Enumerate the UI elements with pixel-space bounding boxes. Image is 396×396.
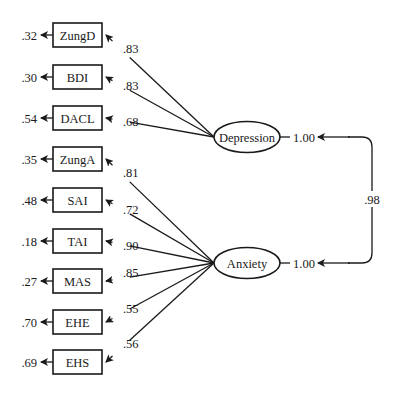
loading-path xyxy=(130,246,214,263)
factor-loading: .90 xyxy=(123,239,139,253)
loading-path xyxy=(130,182,214,263)
indicator-label: BDI xyxy=(67,71,89,85)
factor-label: Depression xyxy=(219,131,276,145)
error-variance: .35 xyxy=(21,153,37,167)
error-variance: .54 xyxy=(21,112,37,126)
factor-loading: .81 xyxy=(123,166,139,180)
loading-arrow xyxy=(106,159,112,165)
factor-loading: .68 xyxy=(123,115,139,129)
factor-loading: .56 xyxy=(123,337,139,351)
loading-path xyxy=(130,214,214,263)
error-variance: .30 xyxy=(21,71,37,85)
loading-arrow xyxy=(106,77,112,81)
factor-loading: .83 xyxy=(123,42,139,56)
indicator-label: SAI xyxy=(67,194,87,208)
sem-diagram: .32.83.30.83.54.68.35.81.48.72.18.90.27.… xyxy=(0,0,396,396)
indicator-label: TAI xyxy=(68,235,88,249)
loading-arrow xyxy=(106,118,112,119)
loading-arrow xyxy=(106,356,112,362)
indicator-label: EHS xyxy=(66,356,90,370)
factor-label: Anxiety xyxy=(227,257,268,271)
error-variance: .32 xyxy=(21,29,37,43)
factor-loading: .83 xyxy=(123,79,139,93)
loading-arrow xyxy=(106,280,112,281)
latent-factors: Depression1.00Anxiety1.00 xyxy=(214,122,315,279)
correlation-value: .98 xyxy=(364,193,380,207)
indicator-label: DACL xyxy=(60,112,94,126)
factor-variance: 1.00 xyxy=(293,257,315,271)
loading-arrow xyxy=(106,35,112,41)
loading-arrow xyxy=(106,200,112,204)
error-variance: .48 xyxy=(21,194,37,208)
factor-loading: .85 xyxy=(123,266,139,280)
indicator-boxes: ZungDBDIDACLZungASAITAIMASEHEEHS xyxy=(53,23,102,374)
indicator-label: ZungA xyxy=(60,153,95,167)
error-variance: .18 xyxy=(21,235,37,249)
error-variance: .70 xyxy=(21,316,37,330)
factor-loading: .72 xyxy=(123,203,139,217)
factor-variance: 1.00 xyxy=(293,131,315,145)
loading-arrow xyxy=(106,241,112,242)
loading-paths: .32.83.30.83.54.68.35.81.48.72.18.90.27.… xyxy=(21,29,214,370)
factor-correlation: .98 xyxy=(318,137,382,263)
indicator-label: MAS xyxy=(64,275,91,289)
loading-arrow xyxy=(106,318,112,322)
indicator-label: EHE xyxy=(65,316,90,330)
indicator-label: ZungD xyxy=(60,29,95,43)
error-variance: .69 xyxy=(21,356,37,370)
factor-loading: .55 xyxy=(123,302,139,316)
sem-diagram-svg: .32.83.30.83.54.68.35.81.48.72.18.90.27.… xyxy=(0,0,396,396)
error-variance: .27 xyxy=(21,275,37,289)
